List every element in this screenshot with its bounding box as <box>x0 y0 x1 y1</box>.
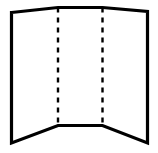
folded-panel-diagram <box>0 0 158 153</box>
folded-panel-outline <box>12 8 148 144</box>
diagram-canvas <box>0 0 158 153</box>
